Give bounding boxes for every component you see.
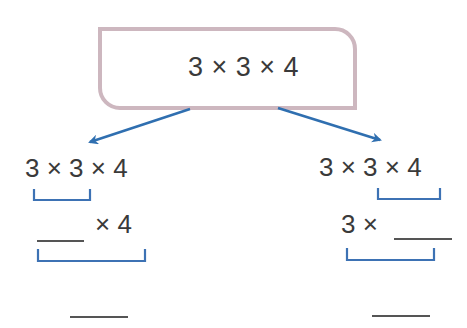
- left-row1-expression: 3 × 3 × 4: [25, 153, 128, 184]
- right-bracket-2: [347, 248, 434, 260]
- right-answer-blank[interactable]: [372, 315, 430, 317]
- left-answer-blank[interactable]: [70, 316, 128, 318]
- right-arrow-icon: [278, 108, 380, 140]
- left-row2-suffix: × 4: [95, 209, 132, 240]
- right-bracket-1: [378, 188, 440, 199]
- left-bracket-1: [34, 189, 90, 200]
- left-bracket-2: [38, 249, 145, 261]
- right-row1-expression: 3 × 3 × 4: [319, 152, 422, 183]
- right-row2-blank[interactable]: [394, 238, 452, 240]
- left-row2-blank[interactable]: [37, 240, 84, 242]
- right-row2-prefix: 3 ×: [341, 209, 378, 240]
- left-arrow-icon: [90, 109, 190, 142]
